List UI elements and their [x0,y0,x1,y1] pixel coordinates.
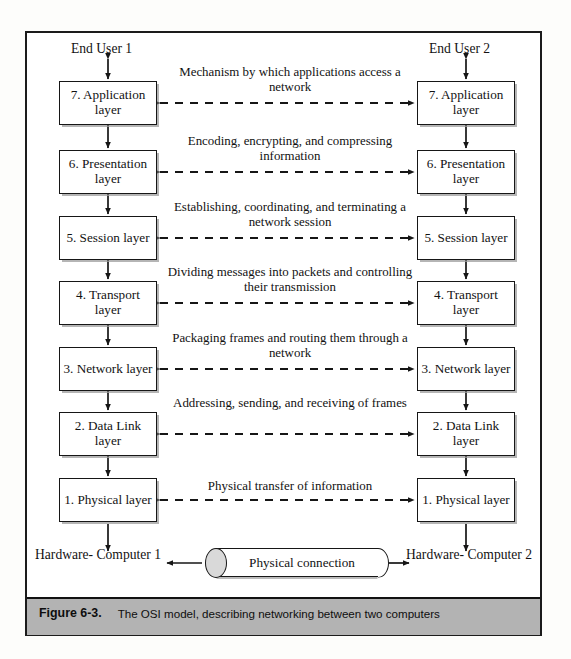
layer-box-left-6[interactable]: 6. Presentation layer [59,150,157,194]
layer-box-left-4[interactable]: 4. Transport layer [59,281,157,325]
layer-description-2: Addressing, sending, and receiving of fr… [167,396,413,411]
layer-description-7: Mechanism by which applications access a… [167,65,413,95]
layer-box-right-6[interactable]: 6. Presentation layer [417,150,515,194]
end-user-2-label: End User 2 [429,41,490,57]
figure-frame: End User 1 End User 2 7. Application lay… [25,31,542,636]
layer-box-right-2[interactable]: 2. Data Link layer [417,412,515,456]
physical-connection-label: Physical connection [205,548,389,577]
layer-box-left-3[interactable]: 3. Network layer [59,347,157,391]
figure-caption-text: The OSI model, describing networking bet… [118,607,440,620]
layer-box-left-2[interactable]: 2. Data Link layer [59,412,157,456]
layer-description-6: Encoding, encrypting, and compressing in… [167,134,413,164]
figure-page: End User 1 End User 2 7. Application lay… [0,0,571,659]
layer-description-1: Physical transfer of information [167,479,413,494]
hardware-computer-2-label: Hardware- Computer 2 [406,547,532,563]
layer-box-left-5[interactable]: 5. Session layer [59,216,157,260]
layer-box-left-7[interactable]: 7. Application layer [59,81,157,125]
hardware-computer-1-label: Hardware- Computer 1 [35,547,161,563]
layer-box-right-1[interactable]: 1. Physical layer [417,478,515,522]
figure-number-label: Figure 6-3. [39,606,102,620]
layer-description-3: Packaging frames and routing them throug… [167,331,413,361]
layer-description-5: Establishing, coordinating, and terminat… [167,200,413,230]
layer-box-right-3[interactable]: 3. Network layer [417,347,515,391]
layer-box-right-5[interactable]: 5. Session layer [417,216,515,260]
layer-box-right-7[interactable]: 7. Application layer [417,81,515,125]
figure-caption-bar: Figure 6-3. The OSI model, describing ne… [27,597,540,635]
osi-diagram: End User 1 End User 2 7. Application lay… [27,33,540,598]
layer-box-right-4[interactable]: 4. Transport layer [417,281,515,325]
layer-box-left-1[interactable]: 1. Physical layer [59,478,157,522]
physical-connection-cylinder: Physical connection [205,548,389,577]
end-user-1-label: End User 1 [71,41,132,57]
layer-description-4: Dividing messages into packets and contr… [167,265,413,295]
